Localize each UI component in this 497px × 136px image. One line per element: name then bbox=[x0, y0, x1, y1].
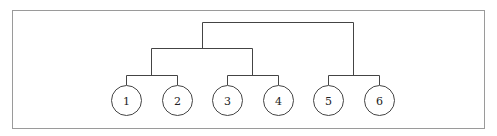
tree-diagram: 1 2 3 4 5 6 bbox=[0, 0, 497, 136]
leaf-node-5: 5 bbox=[314, 86, 344, 116]
node-label: 1 bbox=[123, 95, 130, 108]
leaf-node-1: 1 bbox=[112, 86, 142, 116]
node-label: 4 bbox=[275, 95, 282, 108]
leaf-node-3: 3 bbox=[213, 86, 243, 116]
node-label: 2 bbox=[174, 95, 181, 108]
node-label: 6 bbox=[376, 95, 383, 108]
node-label: 3 bbox=[224, 95, 231, 108]
diagram-frame bbox=[13, 11, 485, 129]
tree-edges bbox=[127, 23, 380, 86]
node-label: 5 bbox=[325, 95, 332, 108]
leaf-node-4: 4 bbox=[264, 86, 294, 116]
leaf-node-6: 6 bbox=[365, 86, 395, 116]
leaf-node-2: 2 bbox=[163, 86, 193, 116]
